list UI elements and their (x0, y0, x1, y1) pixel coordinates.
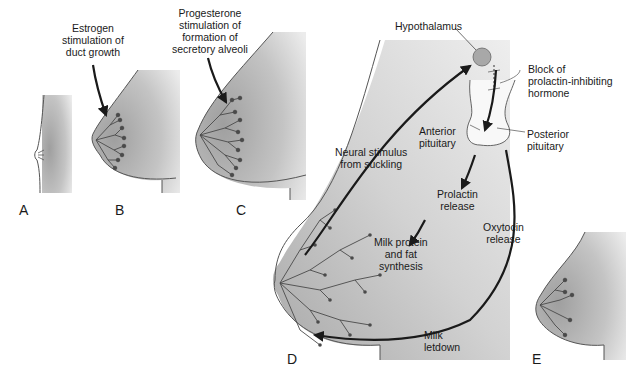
panel-label-a: A (19, 202, 28, 218)
panel-label-e: E (532, 351, 541, 367)
lactation-diagram: A B C D E Estrogen stimulation of duct g… (0, 0, 626, 373)
anterior-pituitary-label: Anterior pituitary (419, 125, 456, 149)
estrogen-arrow (93, 65, 106, 115)
panel-b-tissue (92, 70, 180, 193)
prolactin-release-label: Prolactin release (437, 188, 478, 212)
panel-label-c: C (236, 202, 246, 218)
panel-label-b: B (115, 202, 124, 218)
estrogen-label: Estrogen stimulation of duct growth (62, 22, 124, 58)
oxytocin-release-label: Oxytocin release (483, 221, 524, 245)
panel-c-tissue (196, 32, 306, 200)
progesterone-arrow (208, 58, 226, 102)
progesterone-label: Progesterone stimulation of formation of… (172, 7, 248, 55)
panel-a-tissue (35, 95, 72, 193)
block-label: Block of prolactin-inhibiting hormone (528, 63, 613, 99)
posterior-pituitary-label: Posterior pituitary (527, 128, 569, 152)
milk-synthesis-label: Milk protein and fat synthesis (374, 236, 428, 272)
milk-letdown-label: Milk letdown (424, 329, 460, 353)
panel-e-tissue (536, 232, 626, 360)
neural-stimulus-label: Neural stimulus from suckling (335, 146, 407, 170)
panel-label-d: D (287, 351, 297, 367)
hypothalamus-label: Hypothalamus (395, 20, 462, 32)
